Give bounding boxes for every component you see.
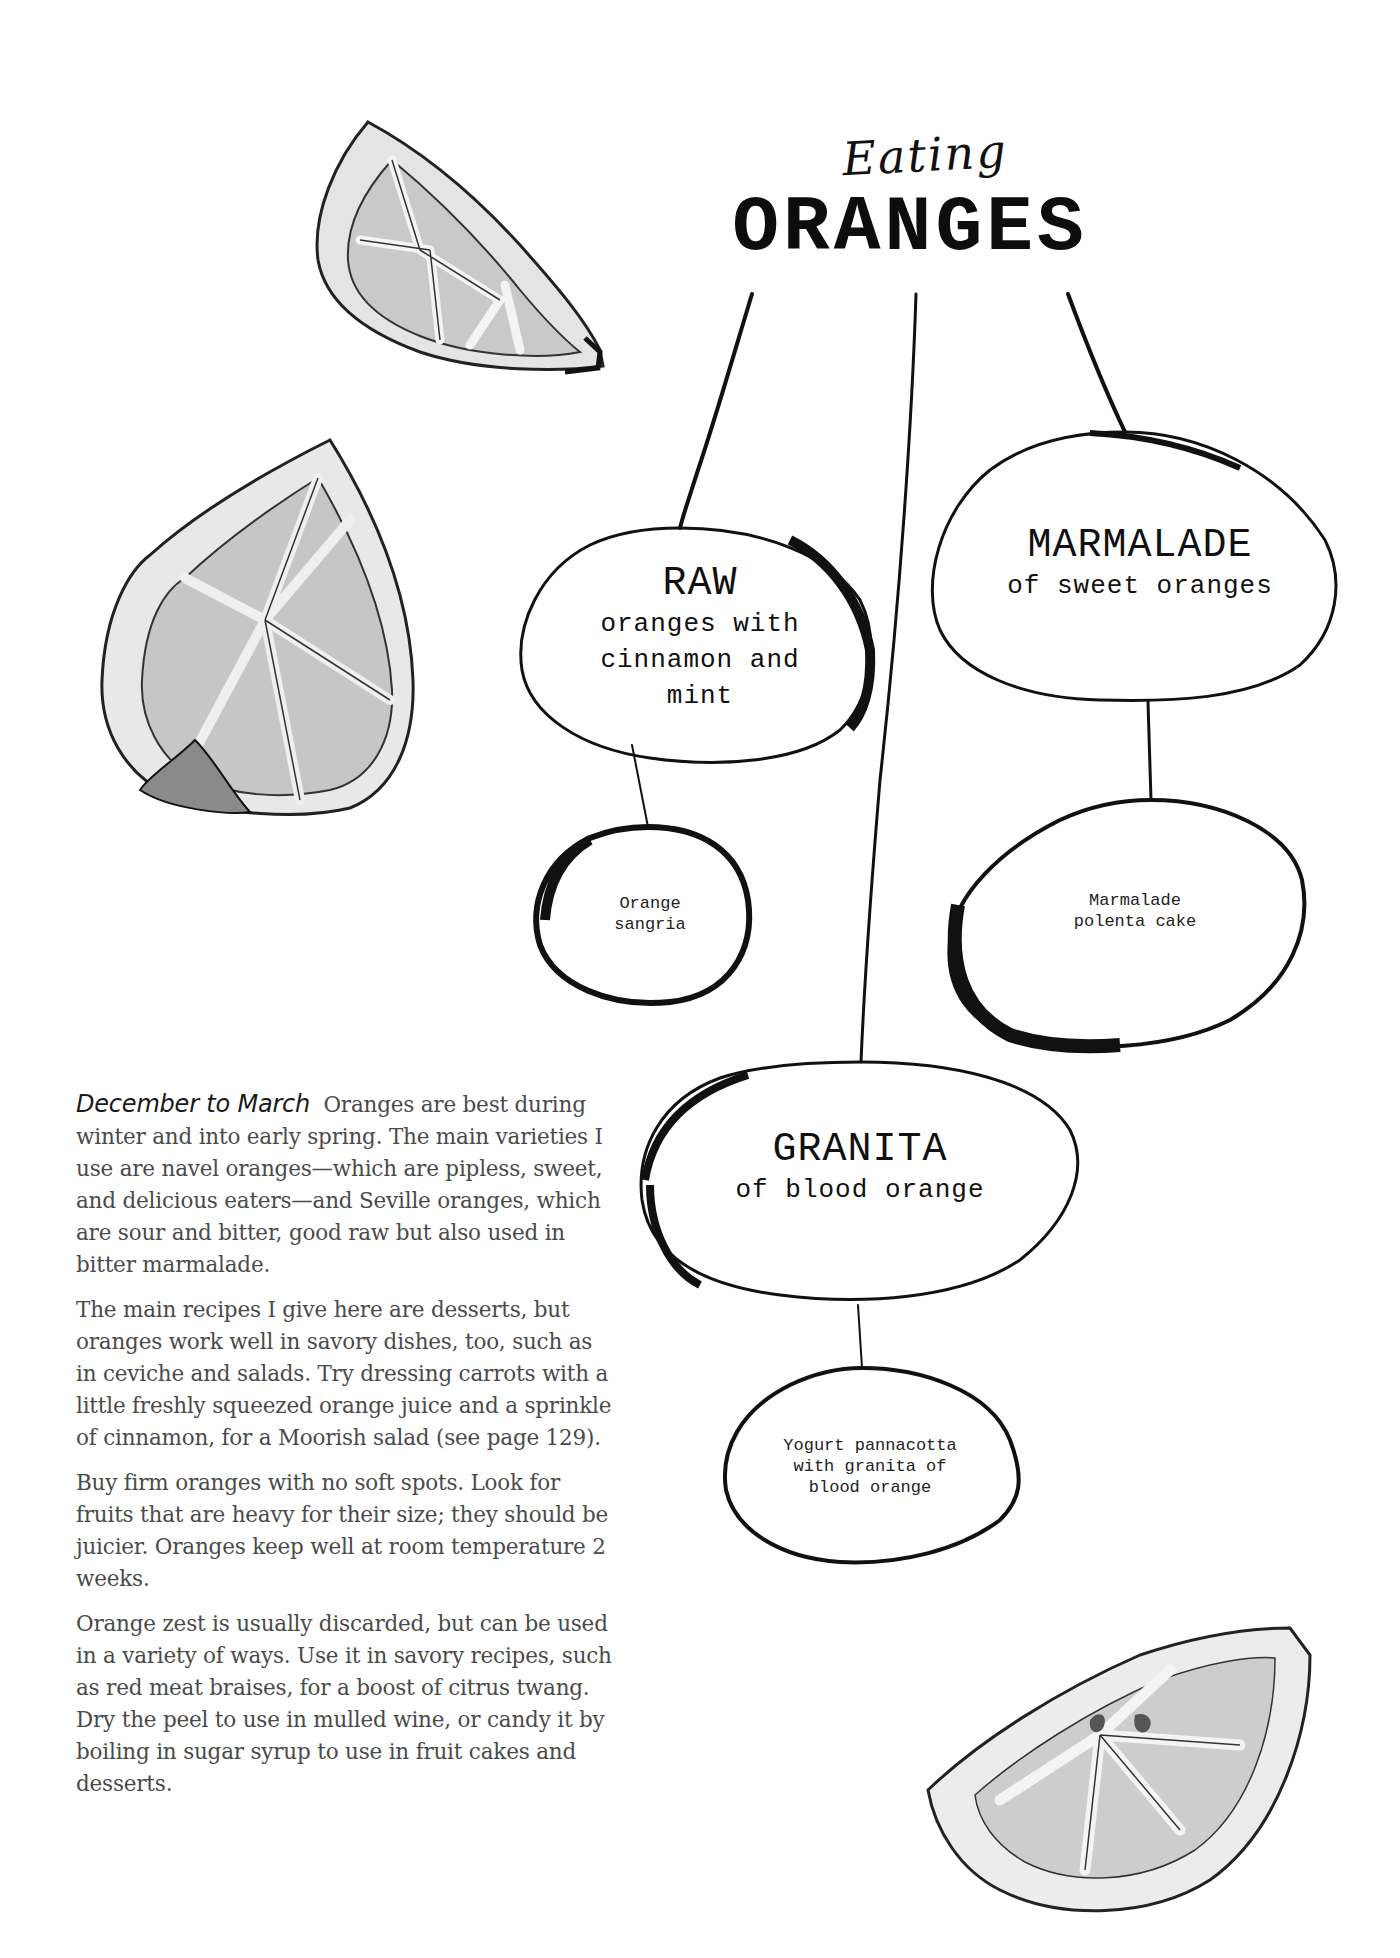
title-script: Eating (839, 124, 1012, 187)
node-marmalade-subtitle: of sweet oranges (960, 568, 1320, 604)
leaf-line: Marmalade (1030, 890, 1240, 911)
node-raw-subtitle: oranges with cinnamon and mint (575, 606, 825, 714)
paragraph-intro-text: Oranges are best during winter and into … (76, 1092, 603, 1277)
node-granita: GRANITA of blood orange (680, 1128, 1040, 1208)
node-granita-heading: GRANITA (680, 1128, 1040, 1172)
paragraph-recipes: The main recipes I give here are dessert… (76, 1294, 616, 1454)
orange-slice-icon (928, 1628, 1310, 1911)
leaf-line: polenta cake (1030, 911, 1240, 932)
page-title: ORANGES (700, 188, 1120, 268)
leaf-line: blood orange (750, 1477, 990, 1498)
orange-half-icon (102, 440, 413, 814)
leaf-line: sangria (580, 914, 720, 935)
paragraph-zest: Orange zest is usually discarded, but ca… (76, 1608, 616, 1800)
body-text: December to March Oranges are best durin… (76, 1088, 616, 1813)
leaf-marmalade-polenta-cake: Marmalade polenta cake (1030, 890, 1240, 932)
leaf-line: Orange (580, 893, 720, 914)
node-granita-subtitle: of blood orange (680, 1172, 1040, 1208)
leaf-line: Yogurt pannacotta (750, 1435, 990, 1456)
node-marmalade-heading: MARMALADE (960, 524, 1320, 568)
orange-wedge-icon (317, 122, 603, 372)
cookbook-page: Eating ORANGES RAW oranges with cinnamon… (0, 0, 1400, 1958)
paragraph-intro: December to March Oranges are best durin… (76, 1088, 616, 1281)
leaf-orange-sangria: Orange sangria (580, 893, 720, 935)
season-lead: December to March (76, 1090, 310, 1118)
node-raw-heading: RAW (545, 562, 855, 606)
node-raw: RAW oranges with cinnamon and mint (545, 562, 855, 714)
paragraph-buying: Buy firm oranges with no soft spots. Loo… (76, 1467, 616, 1595)
leaf-line: with granita of (750, 1456, 990, 1477)
node-marmalade: MARMALADE of sweet oranges (960, 524, 1320, 604)
leaf-yogurt-pannacotta: Yogurt pannacotta with granita of blood … (750, 1435, 990, 1498)
